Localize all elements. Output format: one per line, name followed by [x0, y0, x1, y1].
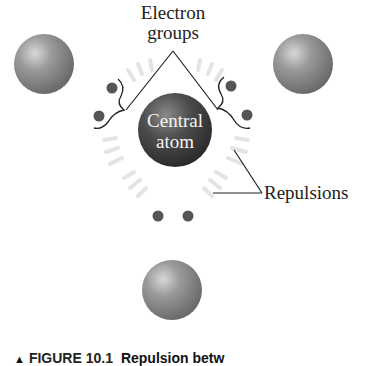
outer-atom-top-right: [273, 34, 333, 94]
outer-atom-bottom: [142, 260, 202, 320]
caption-triangle-icon: ▲: [14, 353, 25, 365]
caption-figure-number: FIGURE 10.1: [29, 350, 113, 366]
electron-group-right: [218, 77, 253, 128]
outer-atom-top-left: [14, 34, 74, 94]
electron-groups-label-line2: groups: [118, 23, 228, 43]
figure-caption: ▲FIGURE 10.1Repulsion betw: [14, 350, 224, 366]
electron-groups-label: Electron groups: [118, 3, 228, 43]
electron-groups-label-line1: Electron: [118, 3, 228, 23]
central-atom-label: Central atom: [135, 110, 215, 152]
electron-group-bottom: [153, 211, 194, 222]
caption-title: Repulsion betw: [121, 350, 224, 366]
central-atom-label-line1: Central: [135, 110, 215, 131]
central-atom-label-line2: atom: [135, 131, 215, 152]
electron-group-left: [94, 79, 125, 128]
repulsions-label: Repulsions: [264, 183, 348, 203]
